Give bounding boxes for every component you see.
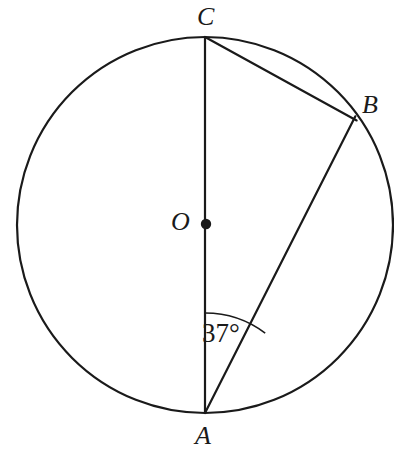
geometry-figure: C B O A 37°: [0, 0, 394, 462]
geometry-canvas: [0, 0, 394, 462]
angle-measure-label: 37°: [202, 320, 240, 347]
center-point-marker: [201, 219, 211, 229]
point-label-o: O: [171, 209, 190, 235]
point-label-c: C: [197, 4, 214, 30]
point-label-a: A: [195, 423, 211, 449]
segment-AB-chord: [205, 116, 355, 413]
segment-CB-chord: [205, 37, 357, 120]
point-label-b: B: [362, 92, 378, 118]
